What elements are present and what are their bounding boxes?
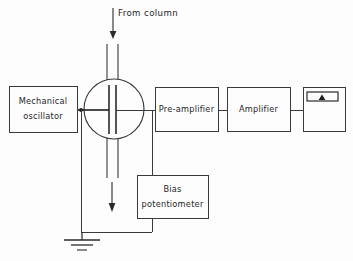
outlet-tube xyxy=(107,133,118,178)
recorder-block[interactable] xyxy=(303,87,345,131)
mechanical-oscillator-label-line2: oscillator xyxy=(23,111,63,121)
pre-amplifier-block[interactable]: Pre-amplifier xyxy=(155,87,218,131)
amplifier-block[interactable]: Amplifier xyxy=(227,87,290,131)
bias-potentiometer-label-line2: potentiometer xyxy=(141,199,203,209)
detector-cell xyxy=(84,79,144,139)
ground-symbol xyxy=(64,232,100,250)
inlet-flow-arrow xyxy=(110,8,117,39)
schematic-diagram: From column xyxy=(0,0,353,261)
pre-amplifier-label: Pre-amplifier xyxy=(159,104,215,114)
mechanical-oscillator-block[interactable]: Mechanical oscillator xyxy=(9,86,77,132)
outlet-flow-arrow xyxy=(109,182,116,212)
bias-potentiometer-label-line1: Bias xyxy=(163,184,181,194)
bias-potentiometer-block[interactable]: Bias potentiometer xyxy=(137,175,208,218)
from-column-label: From column xyxy=(118,8,178,18)
amplifier-label: Amplifier xyxy=(239,104,279,114)
mechanical-oscillator-label-line1: Mechanical xyxy=(19,96,68,106)
diagram-canvas: From column xyxy=(0,0,353,261)
